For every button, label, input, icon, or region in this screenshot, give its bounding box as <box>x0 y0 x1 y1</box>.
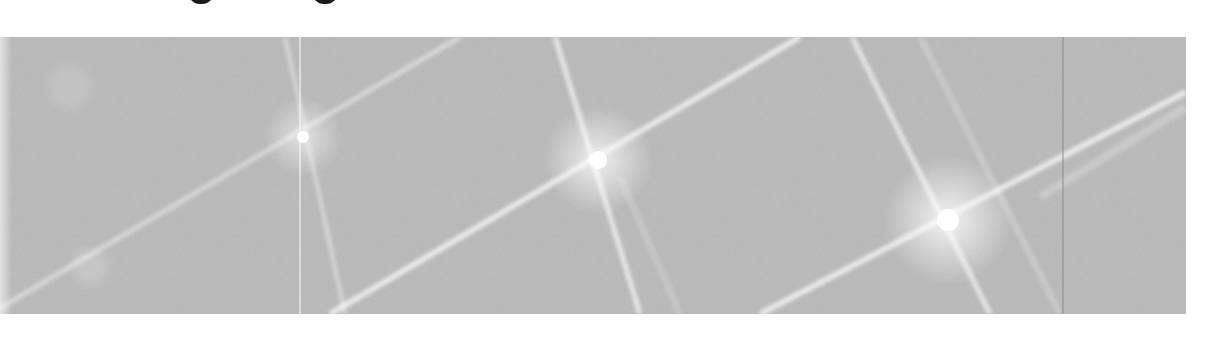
flare-image-panel <box>0 37 1186 314</box>
text-descender-g-1 <box>188 0 214 4</box>
left-edge-fade <box>0 37 12 314</box>
flare-left <box>263 97 343 177</box>
flare-graphic <box>0 37 1186 314</box>
flare-center <box>543 105 653 215</box>
flare-right <box>883 155 1013 285</box>
text-descender-g-2 <box>312 0 338 4</box>
